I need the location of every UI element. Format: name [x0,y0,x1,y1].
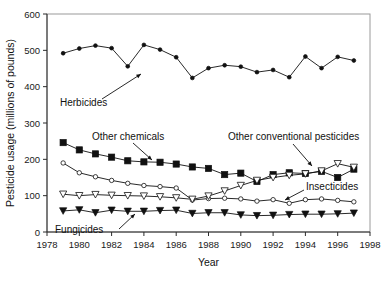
data-point [92,151,98,157]
y-tick-label: 400 [24,81,40,92]
y-tick-label: 600 [24,9,40,20]
data-point [126,64,130,68]
x-tick-label: 1978 [36,239,57,250]
data-point [303,197,307,201]
x-tick-label: 1998 [359,239,380,250]
data-point [335,174,341,180]
x-tick-label: 1982 [101,239,122,250]
data-point [173,161,179,167]
annotation-leader-line [102,74,141,99]
y-tick-label: 200 [24,154,40,165]
data-point [238,170,244,176]
data-point [352,59,356,63]
data-point [320,66,324,70]
data-point [287,201,291,205]
series-annotation-label: Insecticides [306,181,358,192]
series-annotation-label: Other chemicals [92,131,164,142]
data-point [93,175,97,179]
data-point [222,196,226,200]
pesticide-usage-figure: 0100200300400500600197819801982198419861… [0,0,385,283]
data-point [319,197,323,201]
data-point [255,199,259,203]
data-point [205,165,211,171]
data-point [189,164,195,170]
data-point [336,198,340,202]
data-point [352,200,356,204]
data-point [255,70,259,74]
data-point [271,197,275,201]
data-point [223,63,227,67]
x-tick-label: 1994 [295,239,316,250]
data-point [76,147,82,153]
data-point [174,186,178,190]
data-point [77,171,81,175]
data-point [304,55,308,59]
x-tick-label: 1980 [69,239,90,250]
data-point [109,154,115,160]
data-point [207,66,211,70]
data-point [222,171,228,177]
x-tick-label: 1988 [198,239,219,250]
x-tick-label: 1990 [230,239,251,250]
series-other-chemicals [60,140,357,185]
pesticide-usage-chart: 0100200300400500600197819801982198419861… [0,0,385,283]
data-point [157,159,163,165]
data-point [190,76,194,80]
data-point [221,188,228,195]
data-point [92,210,99,217]
data-point [61,161,65,165]
series-fungicides [60,207,358,219]
data-point [142,43,146,47]
annotation-herbicides: Herbicides [60,74,141,108]
data-point [126,181,130,185]
series-line [63,45,354,78]
x-tick-label: 1992 [263,239,284,250]
data-point [141,159,147,165]
y-tick-label: 100 [24,190,40,201]
y-axis-title: Pesticide usage (millions of pounds) [4,39,16,207]
data-point [287,75,291,79]
data-point [142,183,146,187]
data-point [237,182,244,189]
series-annotation-label: Other conventional pesticides [228,131,359,142]
annotation-arrow-head [136,74,141,78]
data-point [239,65,243,69]
y-tick-label: 500 [24,45,40,56]
y-tick-label: 300 [24,118,40,129]
data-point [125,158,131,164]
series-herbicides [61,43,356,80]
data-point [158,48,162,52]
data-point [174,55,178,59]
x-tick-label: 1996 [327,239,348,250]
data-point [239,197,243,201]
x-tick-label: 1986 [166,239,187,250]
data-point [110,46,114,50]
data-point [61,51,65,55]
x-tick-label: 1984 [133,239,154,250]
data-point [94,44,98,48]
y-tick-label: 0 [35,227,40,238]
data-point [271,68,275,72]
data-point [109,178,113,182]
x-axis-title: Year [198,256,220,268]
series-annotation-label: Herbicides [60,97,107,108]
data-point [336,55,340,59]
data-point [60,140,66,146]
series-annotation-label: Fungicides [55,224,103,235]
data-point [77,47,81,51]
data-point [158,184,162,188]
